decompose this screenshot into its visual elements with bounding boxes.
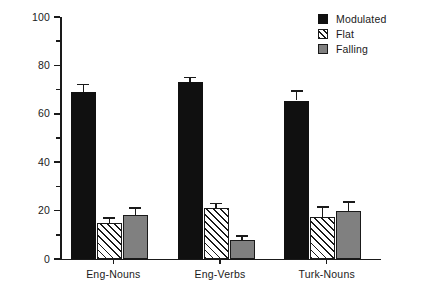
bar-modulated-eng-nouns [71, 92, 96, 259]
legend-label: Flat [336, 28, 354, 41]
bar-flat-eng-verbs [204, 208, 229, 259]
bar-modulated-eng-verbs [178, 82, 203, 259]
x-tick-label: Eng-Verbs [165, 268, 275, 280]
error-bar-cap [236, 235, 248, 236]
error-bar-cap [184, 77, 196, 78]
error-bar-cap [291, 90, 303, 91]
error-bar-stem [322, 207, 323, 217]
error-bar-stem [215, 203, 216, 208]
y-tick-label: 100 [0, 12, 50, 23]
error-bar-stem [348, 202, 349, 210]
legend-label: Falling [336, 43, 368, 56]
bar-falling-eng-nouns [123, 215, 148, 259]
y-tick-label: 60 [0, 108, 50, 119]
x-tick [219, 259, 221, 264]
x-tick [326, 259, 328, 264]
bar-falling-turk-nouns [336, 211, 361, 259]
solid-gray-swatch-icon [318, 44, 328, 54]
error-bar-cap [129, 207, 141, 208]
error-bar-stem [83, 85, 84, 92]
error-bar-cap [317, 206, 329, 207]
hatched-swatch-icon [318, 29, 328, 39]
x-tick [113, 259, 115, 264]
x-tick-label: Turk-Nouns [272, 268, 382, 280]
error-bar-cap [210, 203, 222, 204]
bar-chart: Percent 020406080100 Eng-NounsEng-VerbsT… [0, 0, 431, 290]
y-tick-label: 20 [0, 205, 50, 216]
legend-label: Modulated [336, 13, 386, 26]
y-tick-label: 0 [0, 254, 50, 265]
y-tick-label: 80 [0, 60, 50, 71]
error-bar-stem [296, 91, 297, 101]
error-bar-cap [103, 217, 115, 218]
bar-flat-eng-nouns [97, 223, 122, 259]
error-bar-cap [77, 84, 89, 85]
error-bar-stem [189, 78, 190, 83]
solid-black-swatch-icon [318, 14, 328, 24]
y-tick-label: 40 [0, 157, 50, 168]
error-bar-stem [109, 218, 110, 223]
bar-falling-eng-verbs [230, 240, 255, 259]
error-bar-cap [343, 201, 355, 202]
bar-modulated-turk-nouns [284, 101, 309, 260]
x-tick-label: Eng-Nouns [58, 268, 168, 280]
bar-flat-turk-nouns [310, 217, 335, 259]
plot-area [60, 17, 380, 259]
error-bar-stem [135, 208, 136, 215]
